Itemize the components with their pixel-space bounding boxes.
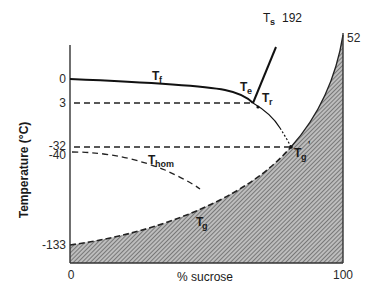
svg-text:e: e <box>247 86 252 96</box>
x-axis-title: % sucrose <box>177 270 233 284</box>
ytick-neg133: -133 <box>42 238 66 252</box>
label-ts: T s 192 <box>263 11 302 27</box>
xtick-0: 0 <box>68 268 75 282</box>
svg-text:g: g <box>202 221 208 231</box>
svg-text:g: g <box>301 152 307 162</box>
label-thom: T hom <box>148 153 174 169</box>
ytick-3: 3 <box>59 96 66 110</box>
tr-curve-dotted <box>280 128 291 147</box>
y-axis-title: Temperature (°C) <box>17 122 31 219</box>
label-tf: T f <box>152 69 163 85</box>
xtick-100: 100 <box>333 268 353 282</box>
ytick-0: 0 <box>59 72 66 86</box>
thom-curve <box>72 152 200 189</box>
label-tr: T r <box>262 91 273 107</box>
svg-text:': ' <box>308 139 310 153</box>
right-axis-value: 52 <box>347 31 361 45</box>
svg-text:r: r <box>269 97 273 107</box>
svg-text:192: 192 <box>282 11 302 25</box>
phase-diagram: 0 3 -32 -40 -133 0 100 52 % sucrose Temp… <box>0 0 377 296</box>
svg-text:hom: hom <box>155 159 174 169</box>
label-te: T e <box>240 80 252 96</box>
ytick-neg40: -40 <box>49 148 67 162</box>
svg-text:s: s <box>270 17 275 27</box>
